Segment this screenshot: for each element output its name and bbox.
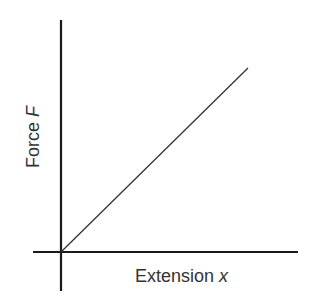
y-axis-label: Force F <box>23 106 44 168</box>
x-axis-label: Extension x <box>135 266 228 287</box>
force-extension-graph <box>0 0 319 302</box>
force-extension-line <box>61 68 248 252</box>
